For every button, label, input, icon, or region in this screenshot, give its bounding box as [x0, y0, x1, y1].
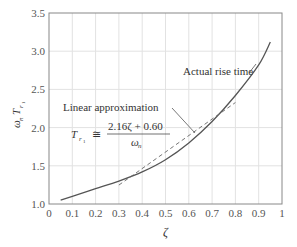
svg-text:≅: ≅: [92, 128, 101, 140]
svg-text:2.16ζ + 0.60: 2.16ζ + 0.60: [108, 120, 163, 133]
x-tick-label: 0.6: [182, 207, 196, 219]
x-tick-label: 0.3: [112, 207, 126, 219]
formula: T r 1 ≅ 2.16ζ + 0.60 ω n: [71, 120, 170, 150]
y-tick-label: 1.0: [31, 198, 45, 210]
svg-text:r: r: [17, 105, 25, 108]
actual-rise-time-label: Actual rise time: [183, 65, 253, 77]
svg-text:1: 1: [21, 101, 26, 104]
y-axis-label: ω n T r 1: [10, 101, 26, 128]
x-tick-label: 0.2: [89, 207, 103, 219]
x-tick-label: 0.7: [205, 207, 219, 219]
svg-text:1: 1: [83, 139, 86, 144]
y-tick-label: 3.0: [31, 45, 45, 57]
x-tick-label: 0: [46, 207, 52, 219]
y-tick-label: 3.5: [31, 7, 45, 19]
x-tick-label: 0.9: [252, 207, 266, 219]
y-tick-label: 2.0: [31, 122, 45, 134]
rise-time-chart: 00.10.20.30.40.50.60.70.80.91 1.01.52.02…: [0, 0, 297, 247]
x-tick-label: 0.1: [65, 207, 79, 219]
y-tick-label: 1.5: [31, 160, 45, 172]
x-tick-label: 0.4: [135, 207, 149, 219]
y-axis-ticks: 1.01.52.02.53.03.5: [31, 7, 45, 210]
svg-text:T: T: [10, 108, 22, 115]
linear-leader-line: [172, 108, 195, 133]
linear-approx-label: Linear approximation: [63, 101, 159, 113]
x-axis-ticks: 00.10.20.30.40.50.60.70.80.91: [46, 207, 285, 219]
y-tick-label: 2.5: [31, 83, 45, 95]
x-axis-label: ζ: [163, 225, 169, 239]
x-tick-label: 1: [279, 207, 285, 219]
svg-text:n: n: [17, 117, 25, 121]
x-tick-label: 0.5: [159, 207, 173, 219]
svg-text:n: n: [138, 142, 142, 150]
svg-text:r: r: [79, 135, 82, 143]
x-tick-label: 0.8: [229, 207, 243, 219]
svg-text:T: T: [71, 128, 78, 140]
